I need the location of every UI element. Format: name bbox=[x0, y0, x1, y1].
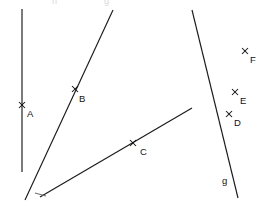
point-label-e: E bbox=[240, 95, 246, 106]
lines-group bbox=[22, 9, 238, 200]
point-c-marker bbox=[130, 140, 136, 146]
point-d-marker bbox=[226, 111, 232, 117]
point-e-marker bbox=[232, 89, 238, 95]
line-g bbox=[192, 10, 238, 198]
clipped-label-left-text: h bbox=[52, 0, 57, 6]
point-label-a: A bbox=[27, 108, 34, 119]
point-label-d: D bbox=[234, 117, 241, 128]
line-through-c bbox=[40, 108, 192, 197]
point-f-marker bbox=[242, 48, 248, 54]
point-label-c: C bbox=[140, 146, 147, 157]
line-label-g: g bbox=[222, 175, 227, 186]
geometry-figure-canvas: h g g bbox=[0, 0, 263, 210]
point-label-f: F bbox=[250, 54, 256, 65]
point-label-b: B bbox=[79, 93, 85, 104]
geometry-svg: h g g bbox=[0, 0, 263, 210]
clipped-label-right-text: g bbox=[104, 0, 109, 6]
clipped-top-labels: h g bbox=[52, 0, 109, 6]
line-through-b bbox=[25, 10, 113, 200]
point-labels-group: A B C D E F bbox=[27, 54, 256, 157]
